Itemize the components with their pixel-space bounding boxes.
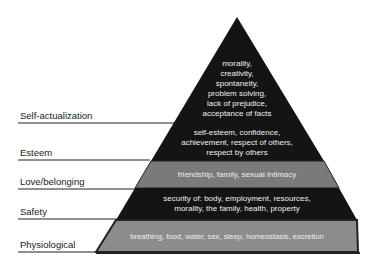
label-self-actualization: Self-actualization: [20, 110, 92, 121]
text-love-belonging: friendship, family, sexual intimacy: [178, 170, 297, 180]
label-physiological: Physiological: [20, 239, 75, 250]
text-safety: security of: body, employment, resources…: [163, 194, 310, 214]
text-self-actualization: morality, creativity, spontaneity, probl…: [203, 59, 272, 119]
label-love-belonging: Love/belonging: [20, 176, 84, 187]
label-safety: Safety: [20, 206, 47, 217]
text-esteem: self-esteem, confidence, achievement, re…: [181, 128, 293, 158]
label-esteem: Esteem: [20, 147, 52, 158]
text-physiological: breathing, food, water, sex, sleep, home…: [130, 232, 323, 242]
